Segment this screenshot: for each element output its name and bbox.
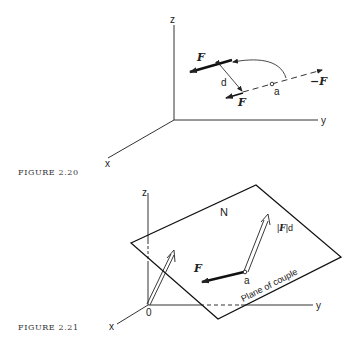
plane-n-label: N	[220, 206, 228, 218]
figure-2-20: z y x F d a F −F FIGURE 2.20	[18, 14, 328, 177]
x-axis-label: x	[109, 321, 114, 332]
x-axis	[108, 120, 174, 158]
moment-label: |F|d	[277, 223, 293, 233]
force-label: F	[193, 262, 203, 275]
transfer-curve-arrow	[233, 60, 286, 78]
diagram-canvas: z y x F d a F −F FIGURE 2.20	[0, 0, 359, 349]
figure-caption: FIGURE 2.21	[18, 323, 79, 332]
x-axis-label: x	[105, 158, 110, 169]
figure-2-21: z y x 0 N |F|d F a Plane of couple FIGUR…	[18, 185, 341, 332]
x-axis	[117, 305, 148, 324]
figure-caption: FIGURE 2.20	[18, 168, 79, 177]
force-negative-label: −F	[310, 75, 328, 88]
origin-label: 0	[146, 307, 152, 318]
moment-vector-a	[244, 214, 270, 272]
point-a-label: a	[244, 275, 250, 286]
point-a-label: a	[274, 86, 280, 97]
plane-n	[131, 185, 341, 319]
distance-label: d	[221, 77, 227, 88]
point-a	[243, 270, 247, 274]
y-axis-label: y	[321, 115, 326, 126]
z-axis-label: z	[142, 187, 147, 198]
axes	[108, 25, 318, 158]
y-axis-label: y	[316, 300, 321, 311]
axes	[117, 193, 313, 324]
force-arrow	[202, 272, 244, 282]
z-axis-label: z	[170, 14, 175, 25]
force-top-label: F	[196, 51, 206, 64]
force-bottom-label: F	[237, 96, 247, 109]
